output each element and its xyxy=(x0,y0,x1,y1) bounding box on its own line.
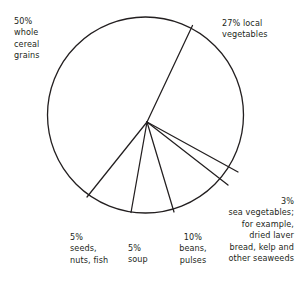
slice-label-beans-pulses: 10% beans, pulses xyxy=(171,232,215,266)
slice-label-whole-cereal-grains: 50% whole cereal grains xyxy=(14,16,84,62)
pie-chart-figure: 50% whole cereal grains 27% local vegeta… xyxy=(0,0,298,291)
slice-label-local-vegetables: 27% local vegetables xyxy=(222,18,298,41)
slice-label-soup: 5% soup xyxy=(128,243,162,266)
slice-label-seeds-nuts-fish: 5% seeds, nuts, fish xyxy=(70,232,130,266)
